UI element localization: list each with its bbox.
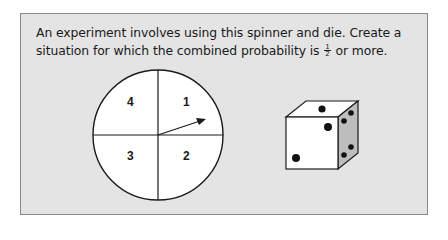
- fraction-denominator: 2: [324, 51, 330, 57]
- spinner-label-4: 4: [127, 95, 134, 109]
- die-pip: [292, 154, 300, 162]
- die-pip: [348, 110, 354, 116]
- die-pip: [348, 144, 354, 150]
- spinner-label-1: 1: [183, 95, 190, 109]
- die-pip: [324, 123, 332, 131]
- spinner-label-3: 3: [127, 149, 134, 163]
- spinner: 4 1 3 2: [88, 65, 228, 205]
- die-pip: [341, 118, 347, 124]
- die: [270, 90, 370, 180]
- fraction-one-half: 12: [324, 44, 330, 57]
- problem-text-end: or more.: [332, 43, 388, 58]
- spinner-label-2: 2: [183, 149, 190, 163]
- problem-statement: An experiment involves using this spinne…: [36, 24, 426, 60]
- die-pip: [341, 152, 347, 158]
- die-pip: [318, 105, 325, 112]
